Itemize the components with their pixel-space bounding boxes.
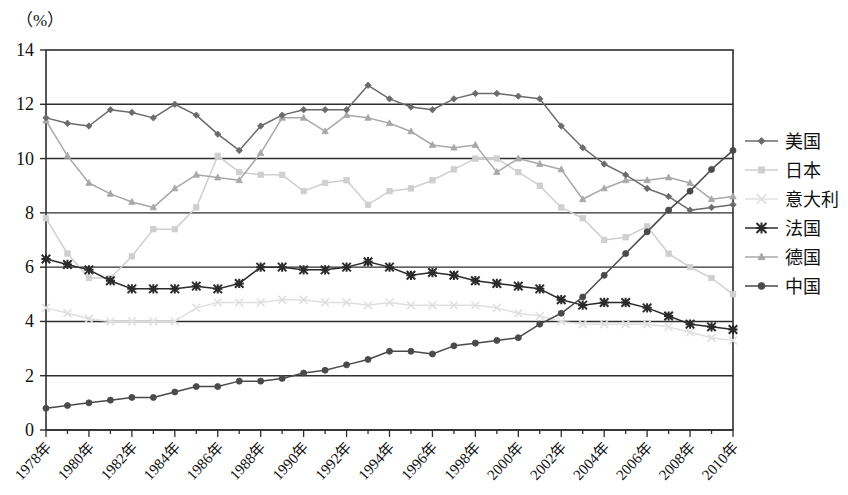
- data-point-marker: [43, 405, 49, 411]
- data-point-marker: [707, 322, 716, 331]
- data-point-marker: [557, 295, 566, 304]
- data-point-marker: [758, 137, 765, 144]
- legend-label: 中国: [785, 277, 821, 297]
- data-point-marker: [515, 93, 521, 99]
- data-point-marker: [129, 394, 135, 400]
- data-point-marker: [301, 370, 307, 376]
- data-point-marker: [86, 275, 91, 280]
- data-point-marker: [65, 251, 70, 256]
- data-point-marker: [41, 254, 50, 263]
- data-point-marker: [106, 276, 115, 285]
- legend-item-意大利[interactable]: 意大利: [745, 190, 839, 210]
- data-point-marker: [580, 294, 586, 300]
- series-line: [46, 156, 733, 294]
- x-tick-label: 1986年: [184, 439, 226, 483]
- data-point-marker: [321, 265, 330, 274]
- data-point-marker: [494, 337, 500, 343]
- data-point-marker: [235, 279, 244, 288]
- axes-frame: [46, 50, 733, 430]
- data-point-marker: [428, 268, 437, 277]
- data-point-marker: [172, 389, 178, 395]
- y-tick-label: 12: [16, 94, 34, 114]
- data-point-marker: [194, 205, 199, 210]
- series-4: [43, 112, 736, 210]
- data-point-marker: [515, 335, 521, 341]
- x-tick-label: 1980年: [55, 439, 97, 483]
- x-tick-label: 1982年: [98, 439, 140, 483]
- data-point-marker: [451, 96, 457, 102]
- line-chart: 02468101214 1978年1980年1982年1984年1986年198…: [0, 0, 848, 495]
- data-point-marker: [43, 216, 48, 221]
- data-point-marker: [279, 375, 285, 381]
- data-point-marker: [643, 303, 652, 312]
- chart-container: （%） 02468101214 1978年1980年1982年1984年1986…: [0, 0, 848, 495]
- x-tick-label: 2002年: [527, 439, 569, 483]
- y-tick-label: 8: [25, 203, 34, 223]
- data-point-marker: [129, 109, 135, 115]
- data-point-marker: [322, 180, 327, 185]
- data-point-marker: [687, 264, 692, 269]
- data-point-marker: [601, 237, 606, 242]
- data-point-marker: [514, 282, 523, 291]
- x-tick-label: 1994年: [355, 439, 397, 483]
- data-point-marker: [758, 283, 765, 290]
- data-point-marker: [516, 169, 521, 174]
- legend-item-美国[interactable]: 美国: [745, 132, 821, 152]
- y-tick-label: 4: [25, 311, 34, 331]
- legend-item-中国[interactable]: 中国: [745, 277, 821, 297]
- data-point-marker: [213, 284, 222, 293]
- plot-frame: [46, 50, 733, 430]
- data-point-marker: [215, 384, 221, 390]
- x-tick-label: 1992年: [312, 439, 354, 483]
- data-point-marker: [429, 107, 435, 113]
- x-tick-label: 1998年: [441, 439, 483, 483]
- data-point-marker: [129, 254, 134, 259]
- legend-item-德国[interactable]: 德国: [745, 248, 821, 268]
- chart-legend: 美国日本意大利法国德国中国: [745, 132, 839, 297]
- legend-label: 美国: [785, 132, 821, 152]
- y-tick-label: 2: [25, 366, 34, 386]
- series-1: [43, 153, 735, 297]
- legend-item-法国[interactable]: 法国: [745, 219, 821, 239]
- data-point-marker: [709, 275, 714, 280]
- data-point-marker: [386, 348, 392, 354]
- series-layer: [41, 82, 737, 411]
- data-point-marker: [472, 340, 478, 346]
- y-tick-label: 14: [16, 40, 34, 60]
- x-tick-label: 2000年: [484, 439, 526, 483]
- data-point-marker: [472, 141, 478, 147]
- data-point-marker: [170, 284, 179, 293]
- x-axis-ticks: [46, 430, 733, 437]
- legend-label: 意大利: [785, 190, 839, 210]
- series-3: [41, 254, 737, 334]
- data-point-marker: [172, 226, 177, 231]
- data-point-marker: [621, 298, 630, 307]
- data-point-marker: [578, 301, 587, 310]
- legend-item-日本[interactable]: 日本: [745, 161, 821, 181]
- data-point-marker: [537, 321, 543, 327]
- data-point-marker: [730, 147, 736, 153]
- data-point-marker: [449, 271, 458, 280]
- data-point-marker: [279, 172, 284, 177]
- data-point-marker: [472, 90, 478, 96]
- data-point-marker: [559, 205, 564, 210]
- data-point-marker: [365, 356, 371, 362]
- data-point-marker: [408, 348, 414, 354]
- data-point-marker: [666, 207, 672, 213]
- data-point-marker: [64, 403, 70, 409]
- data-point-marker: [258, 172, 263, 177]
- data-point-marker: [344, 178, 349, 183]
- data-point-marker: [537, 183, 542, 188]
- data-point-marker: [258, 378, 264, 384]
- legend-label: 日本: [785, 161, 821, 181]
- data-point-marker: [192, 282, 201, 291]
- data-point-marker: [256, 263, 265, 272]
- data-point-marker: [278, 263, 287, 272]
- data-point-marker: [687, 188, 693, 194]
- data-point-marker: [758, 167, 764, 173]
- data-point-marker: [300, 107, 306, 113]
- series-5: [43, 147, 736, 411]
- data-point-marker: [150, 394, 156, 400]
- x-tick-label: 1996年: [398, 439, 440, 483]
- data-point-marker: [580, 216, 585, 221]
